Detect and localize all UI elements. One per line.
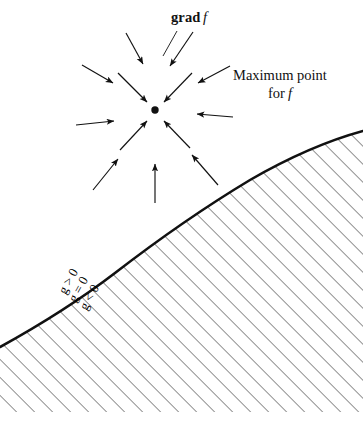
arrow-sw-inner — [120, 121, 147, 150]
maximum-point-label-line2: forf — [233, 85, 327, 103]
grad-f-label: gradf — [171, 9, 207, 25]
maximum-point-label-line1: Maximum point — [233, 67, 327, 85]
arrow-ene — [198, 66, 230, 83]
gradient-maximum-diagram: gradf Maximum point forf g > 0 g = 0 g <… — [0, 0, 363, 427]
grad-leader-line — [163, 31, 177, 56]
maximum-point-label-for: for — [268, 85, 285, 101]
diagram-canvas — [0, 0, 363, 427]
maximum-point-label-function: f — [285, 85, 292, 101]
maximum-point-dot — [151, 106, 158, 113]
arrow-wnw — [82, 65, 113, 83]
gradient-arrows — [76, 32, 233, 203]
grad-f-function: f — [200, 9, 207, 25]
arrow-se-inner — [164, 121, 190, 148]
maximum-point-label: Maximum point forf — [233, 67, 327, 102]
arrow-nnw — [126, 33, 143, 64]
arrow-w — [76, 121, 114, 125]
arrow-e — [197, 114, 233, 117]
arrow-wsw — [93, 159, 118, 190]
arrow-nw-inner — [118, 73, 147, 102]
hatched-region — [0, 0, 363, 427]
arrow-ne-inner — [164, 73, 192, 102]
grad-f-prefix: grad — [171, 9, 200, 25]
arrow-ese — [192, 155, 218, 185]
